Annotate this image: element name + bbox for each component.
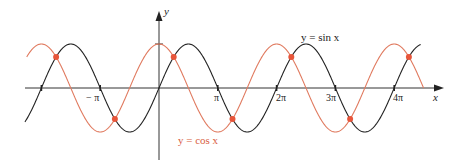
intersection-point (53, 54, 59, 60)
plot-area (0, 0, 454, 164)
intersection-point (347, 116, 353, 122)
tick-label-neg-pi: − π (86, 92, 99, 103)
y-axis-arrow-icon (156, 11, 163, 21)
y-axis-label: y (164, 5, 169, 17)
intersection-point (288, 54, 294, 60)
intersection-point (230, 116, 236, 122)
tick-label-pi: π (214, 92, 219, 103)
intersection-point (171, 54, 177, 60)
sin-curve-label: y = sin x (301, 31, 339, 43)
tick-label-3pi: 3π (326, 92, 336, 103)
intersection-point (406, 54, 412, 60)
x-axis-label: x (433, 91, 438, 103)
trig-graph: y x − π π 2π 3π 4π y = sin x y = cos x (0, 0, 454, 164)
cos-curve-label: y = cos x (178, 134, 218, 146)
tick-label-4pi: 4π (393, 92, 403, 103)
intersection-point (112, 116, 118, 122)
tick-label-2pi: 2π (276, 92, 286, 103)
